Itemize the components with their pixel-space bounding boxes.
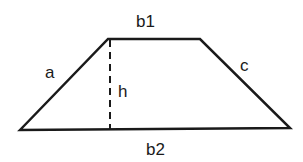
label-c: c	[240, 56, 249, 75]
trapezoid-diagram: b1 a h c b2	[0, 0, 303, 162]
label-a: a	[45, 63, 55, 82]
trapezoid-shape	[20, 39, 290, 130]
label-b2: b2	[146, 140, 165, 159]
label-h: h	[118, 82, 127, 101]
label-b1: b1	[136, 12, 155, 31]
